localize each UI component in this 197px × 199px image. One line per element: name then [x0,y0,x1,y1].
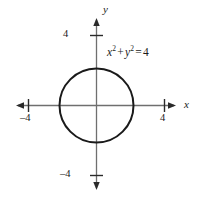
x-tick-label-positive-4: 4 [160,113,165,124]
equation-right-hand-side: 4 [143,46,149,58]
circle-graph-figure: y x 4 –4 –4 4 x2+y2=4 [0,0,197,199]
y-axis-arrow-down [93,182,99,190]
equation-annotation: x2+y2=4 [107,47,149,59]
y-axis-label: y [103,4,108,15]
y-tick-label-negative-4: –4 [60,169,71,180]
y-axis-arrow-up [93,18,99,26]
coordinate-plane-svg [0,0,197,199]
x-tick-label-negative-4: –4 [20,113,31,124]
x-axis-label: x [184,99,189,110]
x-axis-arrow-right [168,102,176,108]
equation-equals-sign: = [134,46,143,58]
y-tick-label-positive-4: 4 [63,29,68,40]
equation-plus-sign: + [116,46,125,58]
x-axis-arrow-left [16,102,24,108]
